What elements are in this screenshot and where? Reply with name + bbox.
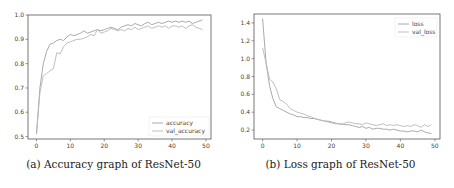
x-tick-label: 30: [134, 142, 142, 149]
x-tick-label: 10: [67, 142, 75, 149]
legend-label: loss: [412, 20, 424, 27]
y-tick-label: 0.8: [14, 60, 24, 67]
y-tick-label: 0.8: [240, 73, 250, 80]
x-tick-label: 0: [261, 142, 265, 149]
loss-chart: 0.20.40.60.81.01.21.401020304050lossval_…: [227, 0, 454, 156]
legend-label: val_loss: [412, 28, 435, 36]
y-tick-label: 1.0: [14, 11, 24, 18]
y-tick-label: 1.0: [240, 55, 250, 62]
y-tick-label: 1.2: [240, 37, 250, 44]
y-tick-label: 0.7: [14, 84, 24, 91]
accuracy-chart-panel: 0.50.60.70.80.91.001020304050accuracyval…: [0, 0, 227, 188]
series-line-val-loss: [263, 48, 432, 128]
y-tick-label: 0.5: [14, 133, 24, 140]
x-tick-label: 50: [431, 142, 439, 149]
x-tick-label: 20: [100, 142, 108, 149]
y-tick-label: 0.2: [240, 126, 250, 133]
loss-chart-panel: 0.20.40.60.81.01.21.401020304050lossval_…: [227, 0, 454, 188]
y-tick-label: 0.9: [14, 35, 24, 42]
x-tick-label: 40: [397, 142, 405, 149]
x-tick-label: 0: [35, 142, 39, 149]
loss-chart-caption: (b) Loss graph of ResNet-50: [227, 158, 454, 170]
legend-label: accuracy: [166, 119, 194, 127]
x-tick-label: 20: [328, 142, 336, 149]
x-tick-label: 30: [362, 142, 370, 149]
x-tick-label: 40: [168, 142, 176, 149]
legend-label: val_accuracy: [166, 127, 205, 135]
x-tick-label: 50: [202, 142, 210, 149]
x-tick-label: 10: [293, 142, 301, 149]
y-tick-label: 0.4: [240, 108, 250, 115]
y-tick-label: 0.6: [14, 108, 24, 115]
y-tick-label: 1.4: [240, 19, 250, 26]
accuracy-chart-caption: (a) Accuracy graph of ResNet-50: [0, 158, 227, 170]
accuracy-chart: 0.50.60.70.80.91.001020304050accuracyval…: [0, 0, 227, 156]
y-tick-label: 0.6: [240, 90, 250, 97]
